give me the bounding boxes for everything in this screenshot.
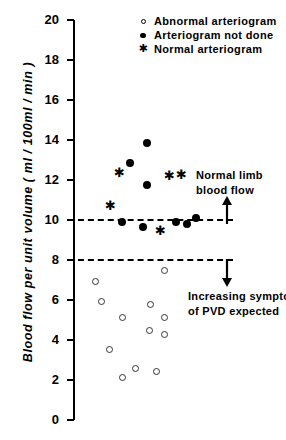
- plot-area: ✱✱✱✱✱: [0, 0, 286, 440]
- annotation-pvd-line1: Increasing symptoms: [188, 289, 286, 304]
- data-point-open-circle: [119, 314, 126, 321]
- legend: Abnormal arteriogramArteriogram not done…: [136, 14, 277, 56]
- data-point-filled-circle: [118, 218, 126, 226]
- data-point-open-circle: [106, 346, 113, 353]
- legend-item: Abnormal arteriogram: [136, 14, 277, 27]
- legend-marker-open-circle-icon: [136, 15, 150, 26]
- data-point-filled-circle: [143, 181, 151, 189]
- annotation-normal-limb: Normal limb blood flow: [196, 168, 263, 198]
- data-point-open-circle: [92, 278, 99, 285]
- legend-item: ✱Normal arteriogram: [136, 42, 277, 55]
- data-point-filled-circle: [139, 223, 147, 231]
- data-point-filled-circle: [143, 139, 151, 147]
- data-point-filled-circle: [183, 220, 191, 228]
- data-point-open-circle: [161, 267, 168, 274]
- filled-circle-icon: [140, 33, 146, 39]
- data-point-open-circle: [147, 301, 154, 308]
- data-point-filled-circle: [126, 159, 134, 167]
- data-point-filled-circle: [192, 214, 200, 222]
- annotation-normal-limb-line1: Normal limb: [196, 168, 263, 183]
- data-point-open-circle: [119, 374, 126, 381]
- legend-label: Arteriogram not done: [154, 29, 273, 41]
- data-point-open-circle: [132, 365, 139, 372]
- data-point-filled-circle: [172, 218, 180, 226]
- data-point-open-circle: [146, 327, 153, 334]
- scatter-chart: 20181614121086420 Blood flow per unit vo…: [0, 0, 286, 440]
- legend-marker-filled-circle-icon: [136, 29, 150, 40]
- annotation-pvd: Increasing symptoms of PVD expected: [188, 289, 286, 319]
- legend-item: Arteriogram not done: [136, 28, 277, 41]
- arrow-up-icon: [219, 196, 235, 224]
- arrow-down-icon: [219, 259, 235, 287]
- legend-marker-star-icon: ✱: [136, 43, 150, 54]
- data-point-open-circle: [153, 368, 160, 375]
- data-point-open-circle: [161, 314, 168, 321]
- annotation-pvd-line2: of PVD expected: [188, 304, 286, 319]
- open-circle-icon: [141, 19, 146, 24]
- legend-label: Normal arteriogram: [154, 43, 262, 55]
- star-icon: ✱: [138, 45, 147, 53]
- data-point-open-circle: [98, 298, 105, 305]
- data-point-open-circle: [161, 331, 168, 338]
- legend-label: Abnormal arteriogram: [154, 15, 277, 27]
